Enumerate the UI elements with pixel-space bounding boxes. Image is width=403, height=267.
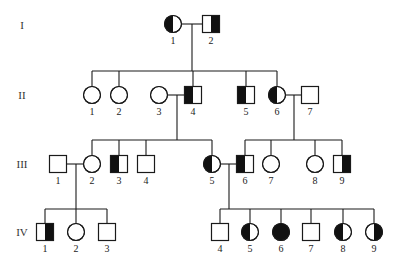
individual-II-4: 4 [185, 87, 202, 117]
individual-II-3: 3 [151, 87, 168, 117]
individual-IV-4: 4 [212, 224, 229, 254]
male-symbol [302, 87, 319, 104]
individual-IV-7: 7 [303, 224, 320, 254]
carrier-half-fill [111, 156, 120, 173]
individual-IV-2: 2 [68, 224, 85, 254]
individual-number: 1 [171, 35, 176, 46]
individual-IV-9: 9 [366, 224, 383, 254]
individual-III-1: 1 [50, 156, 67, 186]
individual-number: 1 [43, 243, 48, 254]
individual-number: 5 [210, 175, 215, 186]
pedigree-lines [45, 24, 374, 224]
individual-number: 9 [372, 243, 377, 254]
male-symbol [303, 224, 320, 241]
male-symbol [138, 156, 155, 173]
individual-number: 5 [244, 106, 249, 117]
carrier-half-fill [269, 87, 278, 104]
individual-II-6: 6 [269, 87, 286, 117]
individual-II-5: 5 [238, 87, 255, 117]
individual-III-5: 5 [204, 156, 221, 186]
individual-number: 6 [275, 106, 280, 117]
male-symbol [50, 156, 67, 173]
carrier-half-fill [238, 87, 247, 104]
generation-label-III: III [17, 158, 28, 170]
individual-III-6: 6 [237, 156, 254, 186]
generation-labels: IIIIIIIV [16, 19, 28, 238]
carrier-half-fill [45, 224, 54, 241]
individual-IV-3: 3 [99, 224, 116, 254]
carrier-half-fill [185, 87, 194, 104]
carrier-half-fill [211, 16, 220, 33]
carrier-half-fill [165, 16, 174, 33]
individual-number: 7 [269, 175, 274, 186]
generation-label-II: II [18, 89, 26, 101]
carrier-half-fill [204, 156, 213, 173]
individual-number: 9 [340, 175, 345, 186]
generation-label-IV: IV [16, 226, 28, 238]
individual-number: 2 [74, 243, 79, 254]
individual-III-2: 2 [84, 156, 101, 186]
pedigree-chart: IIIIIIIV 121234567123456789123456789 [0, 0, 403, 267]
individual-number: 3 [117, 175, 122, 186]
individual-number: 7 [308, 106, 313, 117]
individual-number: 7 [309, 243, 314, 254]
individual-III-9: 9 [334, 156, 351, 186]
individual-number: 5 [248, 243, 253, 254]
individual-IV-8: 8 [335, 224, 352, 254]
individual-III-8: 8 [307, 156, 324, 186]
individual-III-3: 3 [111, 156, 128, 186]
individual-number: 1 [56, 175, 61, 186]
carrier-half-fill [335, 224, 344, 241]
carrier-half-fill [374, 224, 383, 241]
individual-III-7: 7 [263, 156, 280, 186]
individual-number: 4 [144, 175, 149, 186]
carrier-half-fill [342, 156, 351, 173]
individual-number: 1 [90, 106, 95, 117]
individual-II-2: 2 [111, 87, 128, 117]
generation-label-I: I [20, 19, 24, 31]
individual-II-7: 7 [302, 87, 319, 117]
individual-number: 6 [279, 243, 284, 254]
individual-number: 8 [341, 243, 346, 254]
individual-number: 6 [243, 175, 248, 186]
individual-number: 2 [117, 106, 122, 117]
carrier-half-fill [237, 156, 246, 173]
individual-IV-6: 6 [273, 224, 290, 254]
male-symbol [99, 224, 116, 241]
individual-number: 4 [218, 243, 223, 254]
individual-number: 8 [313, 175, 318, 186]
individual-number: 2 [209, 35, 214, 46]
individual-number: 3 [105, 243, 110, 254]
individual-II-1: 1 [84, 87, 101, 117]
individual-IV-1: 1 [37, 224, 54, 254]
carrier-half-fill [242, 224, 251, 241]
individual-number: 2 [90, 175, 95, 186]
individual-III-4: 4 [138, 156, 155, 186]
individual-number: 4 [191, 106, 196, 117]
individual-I-2: 2 [203, 16, 220, 46]
individual-IV-5: 5 [242, 224, 259, 254]
pedigree-individuals: 121234567123456789123456789 [37, 16, 383, 254]
individual-I-1: 1 [165, 16, 182, 46]
male-symbol [212, 224, 229, 241]
individual-number: 3 [157, 106, 162, 117]
